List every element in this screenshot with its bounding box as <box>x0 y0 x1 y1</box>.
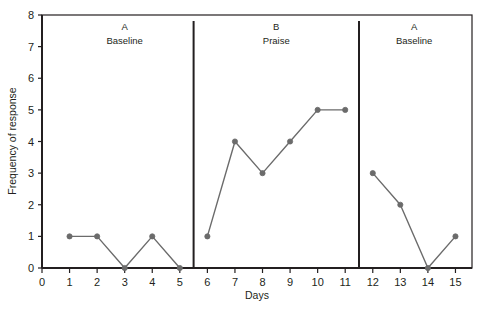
y-tick-label: 7 <box>28 41 34 53</box>
x-tick-label: 1 <box>67 276 73 288</box>
y-tick-label: 2 <box>28 199 34 211</box>
x-tick-label: 4 <box>149 276 155 288</box>
x-tick-label: 14 <box>422 276 434 288</box>
y-axis-ticks: 012345678 <box>28 9 42 274</box>
phase-letter: A <box>411 21 418 32</box>
x-tick-label: 12 <box>367 276 379 288</box>
data-point-marker <box>150 234 155 239</box>
data-point-marker <box>67 234 72 239</box>
phase-letter: A <box>122 21 129 32</box>
x-tick-label: 10 <box>312 276 324 288</box>
data-point-marker <box>425 265 430 270</box>
data-point-marker <box>95 234 100 239</box>
y-tick-label: 5 <box>28 104 34 116</box>
data-point-marker <box>398 202 403 207</box>
data-point-marker <box>315 107 320 112</box>
phase-name: Baseline <box>106 35 142 46</box>
y-axis-title: Frequency of response <box>6 87 18 195</box>
x-tick-label: 7 <box>232 276 238 288</box>
y-tick-label: 8 <box>28 9 34 21</box>
x-tick-label: 6 <box>204 276 210 288</box>
data-point-marker <box>122 265 127 270</box>
data-point-marker <box>260 171 265 176</box>
y-tick-label: 6 <box>28 72 34 84</box>
data-point-marker <box>453 234 458 239</box>
phase-letter: B <box>273 21 279 32</box>
phase-name: Baseline <box>396 35 432 46</box>
x-tick-label: 5 <box>177 276 183 288</box>
x-tick-label: 2 <box>94 276 100 288</box>
y-tick-label: 3 <box>28 167 34 179</box>
x-tick-label: 15 <box>449 276 461 288</box>
x-tick-label: 3 <box>122 276 128 288</box>
data-point-marker <box>232 139 237 144</box>
chart-container: 012345678 0123456789101112131415 ABaseli… <box>0 0 489 319</box>
x-tick-label: 11 <box>339 276 350 288</box>
data-point-marker <box>177 265 182 270</box>
plot-background <box>42 15 472 268</box>
y-tick-label: 0 <box>28 262 34 274</box>
data-point-marker <box>287 139 292 144</box>
data-point-marker <box>370 171 375 176</box>
y-tick-label: 1 <box>28 230 34 242</box>
data-point-marker <box>343 107 348 112</box>
data-point-marker <box>205 234 210 239</box>
x-axis-title: Days <box>245 289 269 301</box>
x-tick-label: 9 <box>287 276 293 288</box>
phase-name: Praise <box>263 35 290 46</box>
x-axis-ticks: 0123456789101112131415 <box>39 268 462 288</box>
x-tick-label: 13 <box>394 276 406 288</box>
y-tick-label: 4 <box>28 136 34 148</box>
x-tick-label: 0 <box>39 276 45 288</box>
x-tick-label: 8 <box>259 276 265 288</box>
frequency-of-response-line-chart: 012345678 0123456789101112131415 ABaseli… <box>0 0 489 319</box>
